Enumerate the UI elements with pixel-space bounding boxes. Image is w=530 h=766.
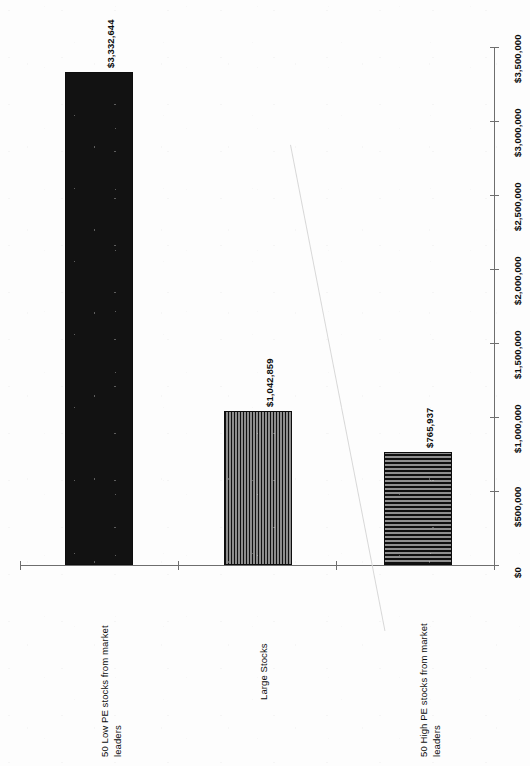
bar-high-pe[interactable] bbox=[384, 452, 452, 565]
data-label-large-stocks: $1,042,859 bbox=[264, 358, 275, 407]
value-axis-line bbox=[494, 47, 495, 566]
value-tick-label-500k: $500,000 bbox=[512, 487, 523, 527]
value-tick-2m bbox=[490, 269, 499, 270]
value-tick-3-5m bbox=[490, 47, 499, 48]
value-tick-label-0: $0 bbox=[512, 567, 523, 578]
value-tick-label-2-5m: $2,500,000 bbox=[512, 182, 523, 231]
category-tick-2 bbox=[336, 561, 337, 570]
category-axis-line bbox=[20, 565, 494, 566]
bar-low-pe[interactable] bbox=[65, 72, 133, 565]
category-label-high-pe-line2: leaders bbox=[431, 725, 442, 757]
value-tick-label-1-5m: $1,500,000 bbox=[512, 330, 523, 379]
chart-page: $0 $500,000 $1,000,000 $1,500,000 $2,000… bbox=[0, 0, 530, 766]
category-tick-start bbox=[20, 561, 21, 570]
value-tick-500k bbox=[490, 491, 499, 492]
value-tick-label-1m: $1,000,000 bbox=[512, 404, 523, 453]
value-tick-label-3-5m: $3,500,000 bbox=[512, 34, 523, 83]
category-tick-1 bbox=[178, 561, 179, 570]
value-tick-1-5m bbox=[490, 343, 499, 344]
value-tick-1m bbox=[490, 417, 499, 418]
category-label-low-pe-line2: leaders bbox=[112, 725, 123, 757]
bar-large-stocks[interactable] bbox=[224, 411, 292, 565]
data-label-low-pe: $3,332,644 bbox=[105, 19, 116, 68]
value-tick-3m bbox=[490, 121, 499, 122]
value-tick-label-3m: $3,000,000 bbox=[512, 108, 523, 157]
category-label-large-stocks: Large Stocks bbox=[258, 643, 269, 700]
category-label-low-pe-line1: 50 Low PE stocks from market bbox=[99, 625, 110, 757]
category-label-high-pe-line1: 50 High PE stocks from market bbox=[418, 623, 429, 757]
value-tick-0 bbox=[490, 565, 499, 566]
value-tick-2-5m bbox=[490, 195, 499, 196]
data-label-high-pe: $765,937 bbox=[424, 408, 435, 448]
scan-streak-artifact bbox=[290, 145, 385, 631]
value-tick-label-2m: $2,000,000 bbox=[512, 256, 523, 305]
